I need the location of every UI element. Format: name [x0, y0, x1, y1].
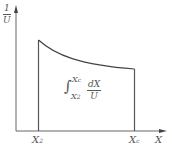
- y-axis-label: 1 U: [3, 4, 11, 25]
- y-label-denominator: U: [3, 15, 11, 25]
- integrand: dX U: [87, 80, 101, 101]
- integral-lower-limit: X2: [71, 93, 81, 101]
- integral-upper-limit: Xc: [72, 76, 81, 84]
- x-axis-label: X: [155, 135, 162, 145]
- lower-sub: 2: [77, 93, 81, 100]
- tick-xc-sub: c: [136, 137, 139, 144]
- y-label-numerator: 1: [3, 4, 11, 15]
- tick-label-x2: X2: [32, 135, 43, 145]
- x-axis-arrow-icon: [159, 129, 167, 133]
- curve-inverse-u: [39, 40, 135, 69]
- integrand-numerator: dX: [87, 80, 101, 91]
- integrand-denominator: U: [87, 91, 101, 101]
- diagram-canvas: [0, 0, 172, 153]
- upper-sub: c: [78, 76, 81, 83]
- y-axis-arrow-icon: [14, 5, 18, 13]
- tick-x2-sub: 2: [39, 137, 43, 144]
- tick-label-xc: Xc: [129, 135, 140, 145]
